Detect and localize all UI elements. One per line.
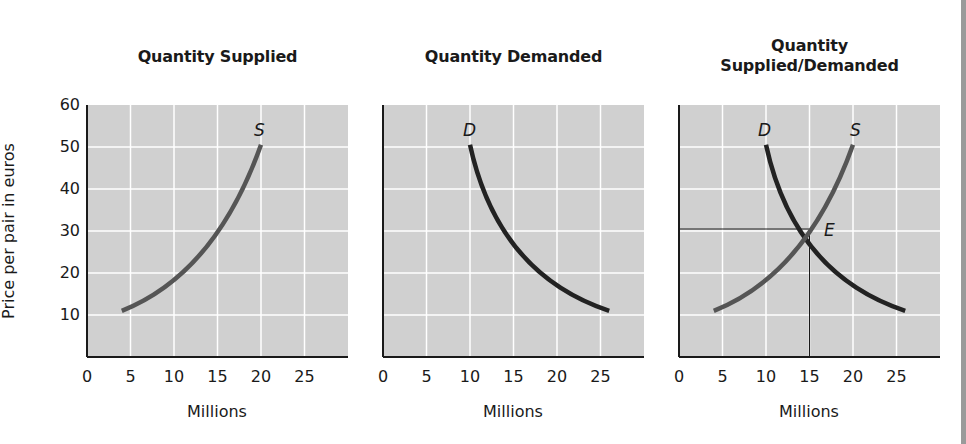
x-tick: 25: [290, 369, 320, 385]
panel-1-plot: [87, 105, 348, 357]
x-tick: 10: [751, 369, 781, 385]
x-tick: 25: [586, 369, 616, 385]
x-tick: 0: [664, 369, 694, 385]
x-tick: 10: [159, 369, 189, 385]
x-tick: 25: [882, 369, 912, 385]
panel-2-demand-label: D: [463, 120, 476, 140]
x-tick: 20: [838, 369, 868, 385]
page-edge-bar: [961, 0, 966, 444]
panel-1-supply-label: S: [254, 120, 265, 140]
panel-3-plot: [679, 105, 940, 357]
x-tick: 20: [542, 369, 572, 385]
x-tick: 5: [412, 369, 442, 385]
panel-3-equilibrium-label: E: [824, 220, 835, 240]
x-tick: 0: [368, 369, 398, 385]
x-tick: 0: [72, 369, 102, 385]
panel-3-x-label: Millions: [749, 403, 869, 421]
x-tick: 5: [116, 369, 146, 385]
x-tick: 15: [499, 369, 529, 385]
x-tick: 10: [455, 369, 485, 385]
panel-1-x-label: Millions: [157, 403, 277, 421]
panel-2-plot: [383, 105, 644, 357]
panel-3-demand-label: D: [758, 120, 771, 140]
x-tick: 20: [246, 369, 276, 385]
x-tick: 15: [795, 369, 825, 385]
panel-2-x-label: Millions: [453, 403, 573, 421]
x-tick: 5: [708, 369, 738, 385]
x-tick: 15: [203, 369, 233, 385]
panel-3-supply-label: S: [850, 120, 861, 140]
